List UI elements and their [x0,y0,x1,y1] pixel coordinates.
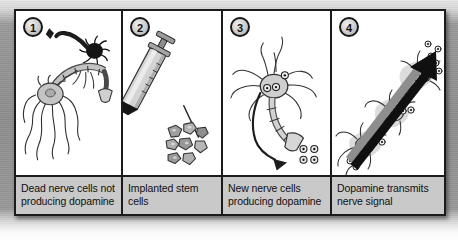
panel-number-badge-3: 3 [230,17,250,37]
panel-number-badge-4: 4 [339,17,359,37]
caption-panel-3: New nerve cells producing dopamine [223,177,332,214]
caption-row: Dead nerve cells not producing dopamine … [16,175,444,214]
axon [267,98,290,142]
dopamine-molecules-released [300,145,318,163]
syringe [123,30,198,137]
panel-1: 1 [16,11,123,175]
axon-terminal [98,71,112,102]
caption-panel-1: Dead nerve cells not producing dopamine [16,177,123,214]
stem-cell-cluster [166,122,208,164]
panel-number-badge-2: 2 [130,17,150,37]
panel-4: 4 [332,11,444,175]
panel-2: 2 [123,11,223,175]
illustration-row: 1 [16,11,444,175]
panel-number-badge-1: 1 [23,17,43,37]
scanned-page-background: 1 [0,0,458,243]
signal-arrow-large [346,51,437,167]
caption-panel-2: Implanted stem cells [123,177,223,214]
figure-frame: 1 [14,9,446,216]
dead-neuron-black [80,36,109,67]
caption-panel-4: Dopamine transmits nerve signal [332,177,444,214]
panel-3: 3 [223,11,332,175]
